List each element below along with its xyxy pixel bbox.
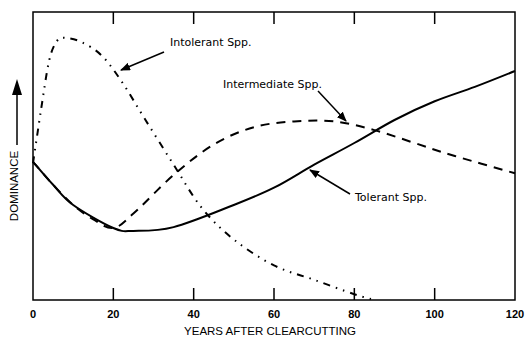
y-axis-up-arrow-icon [12,79,22,145]
tolerant-label: Tolerant Spp. [354,191,427,204]
intermediate-curve [33,121,515,229]
x-tick-label: 120 [506,308,524,320]
intolerant-curve [33,38,374,300]
x-tick-label: 0 [30,308,36,320]
plot-frame [33,12,515,300]
x-tick-label: 40 [188,308,200,320]
intolerant-arrow-icon [121,52,164,70]
tolerant-curve [33,71,515,231]
x-tick-label: 60 [268,308,280,320]
x-axis-ticks [113,12,434,300]
x-axis-title: YEARS AFTER CLEARCUTTING [184,325,356,337]
y-axis-title: DOMINANCE [8,151,20,222]
intolerant-label: Intolerant Spp. [170,36,252,49]
tolerant-arrow-icon [310,170,350,194]
succession-chart: 020406080100120 YEARS AFTER CLEARCUTTING… [0,0,530,346]
x-tick-label: 20 [107,308,119,320]
x-axis-tick-labels: 020406080100120 [30,308,524,320]
x-tick-label: 100 [425,308,443,320]
intermediate-arrow-icon [318,91,346,121]
intermediate-label: Intermediate Spp. [223,78,322,91]
x-tick-label: 80 [348,308,360,320]
